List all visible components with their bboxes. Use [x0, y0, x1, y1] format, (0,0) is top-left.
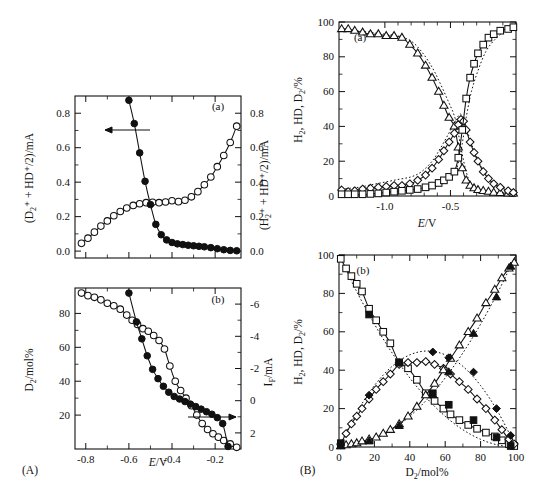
panel-Aa-ylabel-left: (D2⁺ + HD⁺/2)/mA	[23, 132, 38, 223]
marker-open-circle	[117, 208, 124, 215]
marker-open-triangle	[491, 285, 499, 292]
marker-open-square	[359, 191, 366, 198]
panel-B-label: (B)	[300, 464, 316, 477]
series--d2-hd-2-filled-circles-left-axis	[129, 100, 237, 250]
marker-open-triangle	[428, 73, 436, 80]
marker-filled-circle	[142, 178, 149, 185]
marker-open-triangle	[482, 299, 490, 306]
series-d2-theory-dotted	[342, 29, 514, 194]
panel-Bb-ytick-label: 80	[323, 287, 335, 299]
panel-Ba-ytick-label: 100	[318, 16, 335, 28]
panel-Aa-arrowhead	[105, 127, 112, 133]
panel-Bb-xtick-label: 100	[508, 451, 525, 463]
panel-Bb-xtick-label: 0	[336, 451, 342, 463]
marker-filled-circle	[201, 243, 208, 250]
panel-Aa-ytick-right-label: 0.0	[250, 245, 264, 257]
panel-Ba-tag: (a)	[354, 31, 367, 44]
marker-open-diamond	[358, 405, 366, 413]
panel-Bb-tag: (b)	[357, 264, 370, 277]
marker-open-diamond	[498, 426, 506, 434]
marker-open-triangle	[374, 30, 382, 37]
marker-open-diamond	[440, 147, 448, 155]
marker-open-square	[447, 411, 454, 418]
panel-Ab-frame	[75, 288, 241, 449]
panel-Ab-ytick-left-label: 60	[59, 341, 71, 353]
series-h2-open-squares	[342, 27, 514, 194]
panel-Aa-ytick-right-label: 0.8	[250, 107, 264, 119]
panel-Ba-ytick-label: 80	[323, 50, 335, 62]
panel-Aa-tag: (a)	[212, 100, 225, 113]
panel-Bb-ytick-label: 0	[329, 441, 335, 453]
marker-open-circle	[169, 197, 176, 204]
marker-open-square	[345, 191, 352, 198]
panel-Ab-xlabel: E/V	[148, 456, 168, 468]
marker-open-square	[497, 27, 504, 34]
marker-open-triangle	[435, 87, 443, 94]
marker-open-diamond	[431, 361, 439, 369]
marker-filled-circle	[144, 352, 151, 359]
marker-filled-circle	[136, 150, 143, 157]
marker-filled-circle	[214, 245, 221, 252]
marker-open-diamond	[342, 430, 350, 438]
panel-Ab-ylabel-left: D2/mol%	[23, 348, 38, 391]
marker-open-circle	[117, 306, 124, 313]
marker-open-circle	[214, 163, 221, 170]
marker-open-circle	[177, 387, 184, 394]
panel-Aa-ytick-left-label: 0.6	[56, 141, 70, 153]
marker-open-square	[480, 41, 487, 48]
marker-open-square	[387, 340, 394, 347]
marker-open-circle	[227, 139, 234, 146]
marker-open-square	[474, 425, 481, 432]
marker-open-circle	[175, 198, 182, 205]
marker-filled-square	[445, 401, 452, 408]
marker-filled-circle	[139, 336, 146, 343]
series-d2-mol-filled-circles-left-axis-	[129, 293, 228, 446]
panel-A-label: (A)	[22, 464, 38, 477]
marker-open-circle	[195, 188, 202, 195]
panel-Aa-ytick-left-label: 0.2	[56, 210, 70, 222]
marker-open-circle	[220, 152, 227, 159]
marker-open-circle	[136, 200, 143, 207]
marker-filled-circle	[131, 120, 138, 127]
marker-open-square	[455, 154, 462, 161]
marker-open-diamond	[414, 176, 422, 184]
panel-Ab-xtick-label: -0.6	[120, 453, 138, 465]
marker-open-circle	[156, 337, 163, 344]
marker-filled-square	[366, 311, 373, 318]
panel-Bb-xtick-label: 40	[404, 451, 416, 463]
marker-open-square	[391, 188, 398, 195]
marker-filled-circle	[126, 97, 133, 104]
marker-open-square	[359, 288, 366, 295]
marker-open-square	[337, 256, 344, 263]
marker-open-triangle	[462, 176, 470, 183]
marker-open-diamond	[353, 412, 361, 420]
panel-Ba-xlabel: E/V	[417, 217, 437, 229]
marker-open-circle	[233, 123, 240, 130]
panel-Bb-ytick-label: 60	[323, 325, 335, 337]
marker-open-circle	[199, 420, 206, 427]
panel-Ba-ytick-label: 20	[323, 155, 335, 167]
marker-open-triangle	[344, 25, 352, 32]
marker-filled-square	[493, 434, 500, 441]
marker-open-square	[483, 429, 490, 436]
marker-open-triangle	[445, 113, 453, 120]
marker-open-square	[422, 184, 429, 191]
marker-open-circle	[130, 202, 137, 209]
marker-open-square	[429, 182, 436, 189]
marker-filled-circle	[227, 247, 234, 254]
marker-open-circle	[111, 212, 118, 219]
marker-open-square	[490, 31, 497, 38]
marker-filled-circle	[225, 443, 232, 450]
marker-open-square	[414, 186, 421, 193]
marker-filled-square	[470, 417, 477, 424]
marker-open-circle	[208, 174, 215, 181]
marker-open-diamond	[470, 149, 478, 157]
marker-open-diamond	[491, 416, 499, 424]
series-d2-open-triangles	[341, 263, 514, 446]
marker-open-circle	[111, 302, 118, 309]
series-i-f-open-circles-right-axis-	[81, 293, 236, 447]
panel-Ab-xtick-label: -0.8	[77, 453, 95, 465]
marker-open-circle	[182, 197, 189, 204]
panel-Aa-ytick-left-label: 0.4	[56, 176, 70, 188]
marker-filled-circle	[219, 420, 226, 427]
